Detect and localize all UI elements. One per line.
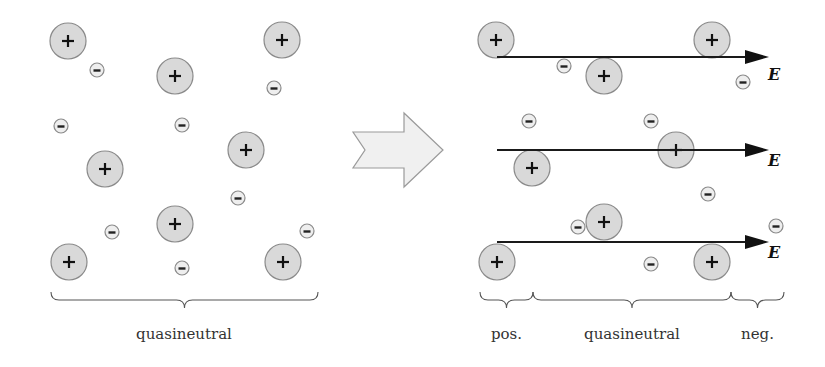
field-label: E — [767, 65, 781, 84]
field-label: E — [767, 151, 781, 170]
electron-minus-circle-icon — [175, 261, 189, 275]
plasma-diagram: EEEpos.quasineutralneg. quasineutral — [0, 0, 825, 367]
electric-field-arrow-icon — [497, 235, 769, 249]
ion-plus-circle-icon — [51, 244, 87, 280]
electron-minus-circle-icon — [231, 191, 245, 205]
electron-minus-circle-icon — [557, 59, 571, 73]
ion-plus-circle-icon — [50, 23, 86, 59]
electron-minus-circle-icon — [54, 119, 68, 133]
field-label: E — [767, 243, 781, 262]
transition-arrow-icon — [353, 113, 443, 187]
quasineutral-brace — [51, 292, 318, 308]
ion-plus-circle-icon — [514, 150, 550, 186]
electron-minus-circle-icon — [175, 118, 189, 132]
electron-minus-circle-icon — [267, 81, 281, 95]
region-label: quasineutral — [584, 325, 680, 343]
left-panel-quasineutral — [50, 22, 318, 308]
right-panel-separated: EEEpos.quasineutralneg. — [478, 22, 784, 343]
ion-plus-circle-icon — [228, 132, 264, 168]
electron-minus-circle-icon — [769, 219, 783, 233]
ion-plus-circle-icon — [478, 22, 514, 58]
electron-minus-circle-icon — [571, 220, 585, 234]
ion-plus-circle-icon — [479, 244, 515, 280]
ion-plus-circle-icon — [265, 244, 301, 280]
ion-plus-circle-icon — [586, 204, 622, 240]
region-label: neg. — [741, 325, 774, 343]
electron-minus-circle-icon — [300, 224, 314, 238]
ion-plus-circle-icon — [157, 58, 193, 94]
electron-minus-circle-icon — [522, 114, 536, 128]
region-label: pos. — [491, 325, 522, 343]
ion-plus-circle-icon — [264, 22, 300, 58]
electron-minus-circle-icon — [736, 75, 750, 89]
electric-field-arrow-icon — [497, 50, 769, 64]
ion-plus-circle-icon — [694, 22, 730, 58]
electron-minus-circle-icon — [644, 257, 658, 271]
ion-plus-circle-icon — [157, 206, 193, 242]
region-brace — [731, 292, 784, 308]
region-brace — [533, 292, 731, 308]
ion-plus-circle-icon — [87, 151, 123, 187]
region-brace — [480, 292, 533, 308]
electron-minus-circle-icon — [105, 225, 119, 239]
electron-minus-circle-icon — [90, 63, 104, 77]
ion-plus-circle-icon — [694, 244, 730, 280]
electron-minus-circle-icon — [701, 187, 715, 201]
left-panel-label: quasineutral — [136, 325, 232, 343]
ion-plus-circle-icon — [586, 58, 622, 94]
electron-minus-circle-icon — [644, 114, 658, 128]
